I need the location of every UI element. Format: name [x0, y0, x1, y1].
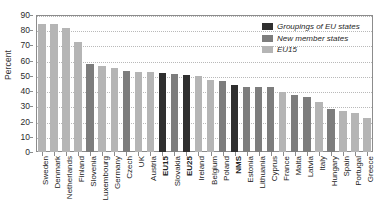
bar-luxembourg: [98, 66, 105, 152]
bar-latvia: [303, 97, 310, 152]
x-label-wrap: UK: [132, 156, 144, 216]
bar-uk: [135, 72, 142, 152]
bar-france: [279, 92, 286, 152]
bar-slot: [159, 15, 166, 152]
x-label-wrap: Denmark: [48, 156, 60, 216]
x-label-wrap: Sweden: [36, 156, 48, 216]
y-tick-label-60: 60: [21, 56, 30, 65]
legend-swatch-new: [262, 35, 273, 42]
x-label-wrap: Greece: [361, 156, 373, 216]
y-tick-label-70: 70: [21, 41, 30, 50]
x-axis-label-greece: Greece: [367, 156, 375, 182]
x-label-wrap: EU15: [156, 156, 168, 216]
x-label-wrap: Netherlands: [60, 156, 72, 216]
legend-label-grp: Groupings of EU states: [277, 22, 360, 31]
bar-cyprus: [267, 87, 274, 152]
bar-slot: [86, 15, 93, 152]
bar-nms: [231, 85, 238, 152]
bar-portugal: [351, 113, 358, 152]
legend-item-eu15: EU15: [262, 45, 378, 55]
bar-denmark: [50, 24, 57, 152]
y-tick-label-40: 40: [21, 87, 30, 96]
bar-slot: [98, 15, 105, 152]
bar-slot: [207, 15, 214, 152]
bar-slot: [231, 15, 238, 152]
y-tick-label-90: 90: [21, 11, 30, 20]
x-label-wrap: Slovenia: [84, 156, 96, 216]
bar-hungary: [327, 109, 334, 152]
bar-eu15: [159, 73, 166, 152]
y-tick-mark-0: [30, 152, 33, 153]
y-axis-tick-labels: 0102030405060708090: [0, 15, 33, 152]
bar-eu25: [183, 75, 190, 152]
bar-slot: [135, 15, 142, 152]
x-label-wrap: Austria: [144, 156, 156, 216]
x-label-wrap: Finland: [72, 156, 84, 216]
x-label-wrap: France: [277, 156, 289, 216]
y-tick-label-10: 10: [21, 133, 30, 142]
bar-slot: [171, 15, 178, 152]
x-label-wrap: Czech: [120, 156, 132, 216]
bar-slot: [111, 15, 118, 152]
bar-ireland: [195, 76, 202, 152]
x-label-wrap: Portugal: [349, 156, 361, 216]
bar-slot: [195, 15, 202, 152]
legend-swatch-eu15: [262, 46, 273, 53]
y-tick-mark-50: [30, 76, 33, 77]
legend-item-new: New member states: [262, 34, 378, 44]
x-label-wrap: Hungary: [325, 156, 337, 216]
bar-slot: [147, 15, 154, 152]
x-label-wrap: Latvia: [301, 156, 313, 216]
bar-italy: [315, 102, 322, 152]
bar-slot: [219, 15, 226, 152]
bar-belgium: [207, 80, 214, 152]
bar-slot: [62, 15, 69, 152]
x-label-wrap: Malta: [289, 156, 301, 216]
bar-malta: [291, 95, 298, 152]
x-label-wrap: Luxembourg: [96, 156, 108, 216]
x-label-wrap: Spain: [337, 156, 349, 216]
x-label-wrap: Belgium: [205, 156, 217, 216]
bar-netherlands: [62, 28, 69, 152]
x-label-wrap: Germany: [108, 156, 120, 216]
y-tick-mark-10: [30, 137, 33, 138]
bar-slot: [243, 15, 250, 152]
x-label-wrap: Ireland: [192, 156, 204, 216]
y-tick-mark-60: [30, 61, 33, 62]
bar-finland: [74, 42, 81, 152]
bar-germany: [111, 68, 118, 152]
x-label-wrap: NMS: [229, 156, 241, 216]
legend-swatch-grp: [262, 23, 273, 30]
bar-estonia: [243, 87, 250, 152]
bar-austria: [147, 72, 154, 152]
legend-label-eu15: EU15: [277, 45, 297, 54]
y-tick-label-50: 50: [21, 72, 30, 81]
bar-slot: [74, 15, 81, 152]
bar-slot: [38, 15, 45, 152]
y-tick-label-80: 80: [21, 26, 30, 35]
y-tick-label-20: 20: [21, 117, 30, 126]
y-tick-label-30: 30: [21, 102, 30, 111]
y-tick-mark-20: [30, 122, 33, 123]
x-label-wrap: Slovakia: [168, 156, 180, 216]
bar-lithuania: [255, 87, 262, 152]
bar-poland: [219, 81, 226, 152]
bar-spain: [339, 111, 346, 152]
x-label-wrap: Poland: [217, 156, 229, 216]
bar-slovakia: [171, 74, 178, 152]
y-tick-mark-80: [30, 30, 33, 31]
y-tick-mark-40: [30, 91, 33, 92]
y-tick-mark-70: [30, 45, 33, 46]
x-label-wrap: Estonia: [241, 156, 253, 216]
bar-czech: [123, 71, 130, 152]
legend-label-new: New member states: [277, 34, 348, 43]
x-label-wrap: Lithuania: [253, 156, 265, 216]
bar-greece: [363, 118, 370, 152]
y-tick-mark-30: [30, 106, 33, 107]
bar-slot: [123, 15, 130, 152]
bar-slot: [183, 15, 190, 152]
bar-slovenia: [86, 64, 93, 152]
x-label-wrap: EU25: [180, 156, 192, 216]
legend: Groupings of EU statesNew member statesE…: [262, 22, 378, 57]
bar-chart: Percent 0102030405060708090 SwedenDenmar…: [0, 0, 380, 216]
